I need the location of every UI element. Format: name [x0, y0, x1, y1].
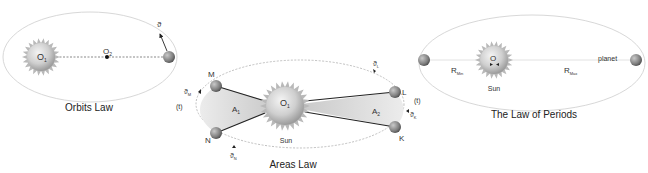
r-min-label: RMin: [451, 66, 463, 76]
point-n-label: N: [205, 136, 211, 145]
point-m-label: M: [208, 70, 215, 79]
planet-icon-n: [210, 127, 222, 139]
orbits-law-diagram: O1 O2 ϑ Orbits Law: [3, 12, 177, 113]
planet-icon: [163, 51, 175, 63]
sun-center-label: O: [490, 54, 496, 63]
law-of-periods-diagram: O Sun planet RMin RMax The Law of Period…: [418, 15, 645, 120]
sun-label: Sun: [488, 85, 501, 92]
velocity-n-arrow-icon: [232, 145, 236, 148]
velocity-vector-arrow: [160, 34, 167, 51]
law-of-periods-title: The Law of Periods: [491, 109, 577, 120]
orbit-ellipse: [419, 15, 645, 111]
velocity-n-label: ϑN: [230, 152, 237, 161]
time-label-right: (t): [414, 97, 421, 105]
velocity-k-arrow-icon: [406, 109, 409, 113]
planet-icon-l: [389, 86, 401, 98]
kepler-laws-diagram: O1 O2 ϑ Orbits Law M N L K O1 Sun A1 A2 …: [0, 0, 648, 173]
planet-label: planet: [598, 55, 617, 63]
velocity-label: ϑ: [157, 20, 162, 29]
areas-law-title: Areas Law: [269, 159, 317, 170]
planet-icon-k: [389, 121, 401, 133]
velocity-m-label: ϑM: [184, 88, 191, 97]
areas-law-diagram: M N L K O1 Sun A1 A2 (t) (t) ϑM ϑN ϑL ϑK…: [176, 60, 421, 170]
velocity-k-label: ϑK: [410, 111, 417, 120]
planet-icon-m: [210, 80, 222, 92]
velocity-l-label: ϑL: [373, 60, 380, 69]
point-l-label: L: [402, 88, 407, 97]
sun-label: Sun: [280, 137, 293, 144]
time-label-left: (t): [176, 103, 183, 111]
orbits-law-title: Orbits Law: [65, 102, 114, 113]
point-k-label: K: [399, 134, 405, 143]
planet-icon-perihelion: [418, 54, 430, 66]
planet-icon-aphelion: [630, 54, 642, 66]
focus2-label: O2: [103, 47, 112, 57]
r-max-label: RMax: [564, 66, 577, 76]
